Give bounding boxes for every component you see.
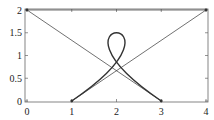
- control-polygon-group: [27, 10, 206, 101]
- x-tick-label: 0: [25, 106, 30, 117]
- y-tick-label: 2: [17, 5, 22, 16]
- bezier-chart: 0123400.511.52: [0, 0, 214, 120]
- ticks-group: 0123400.511.52: [10, 5, 209, 118]
- control-points-group: [26, 9, 208, 103]
- y-tick-label: 0: [17, 96, 22, 107]
- control-point: [26, 9, 29, 12]
- y-tick-label: 1.5: [10, 27, 23, 38]
- y-tick-label: 1: [17, 50, 22, 61]
- control-polygon-segment: [27, 10, 161, 101]
- x-tick-label: 2: [114, 106, 119, 117]
- control-point: [205, 9, 208, 12]
- x-tick-label: 1: [69, 106, 74, 117]
- control-point: [70, 100, 73, 103]
- bezier-curve-group: [72, 33, 162, 101]
- plot-frame: [25, 9, 208, 102]
- plot-frame-group: [25, 9, 208, 102]
- x-tick-label: 4: [204, 106, 209, 117]
- x-tick-label: 3: [159, 106, 164, 117]
- y-tick-label: 0.5: [10, 73, 23, 84]
- bezier-curve: [72, 33, 162, 101]
- control-point: [160, 100, 163, 103]
- control-polygon-segment: [72, 10, 206, 101]
